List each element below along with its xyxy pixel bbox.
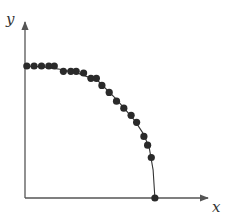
x-axis-label: x (212, 198, 221, 216)
data-point (80, 69, 87, 76)
data-point (133, 119, 140, 126)
data-point (151, 194, 158, 201)
data-point (23, 62, 30, 69)
data-point (38, 62, 45, 69)
data-point (113, 98, 120, 105)
chart: y x (0, 0, 230, 217)
data-point (120, 105, 127, 112)
fit-curve (25, 66, 155, 198)
data-point (144, 142, 151, 149)
data-point (73, 68, 80, 75)
y-axis-label: y (5, 10, 15, 28)
data-points (23, 62, 158, 201)
data-point (128, 112, 135, 119)
data-point (148, 154, 155, 161)
data-point (51, 62, 58, 69)
data-point (93, 75, 100, 82)
data-point (106, 89, 113, 96)
data-point (60, 68, 67, 75)
data-point (140, 133, 147, 140)
data-point (30, 62, 37, 69)
data-point (98, 82, 105, 89)
